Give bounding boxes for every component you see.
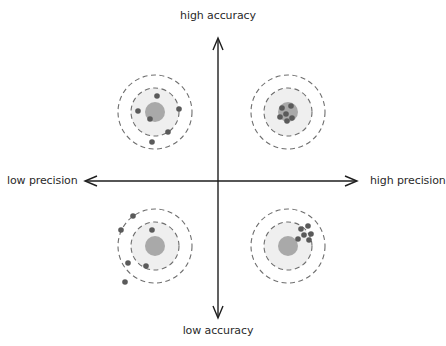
shot-dot	[298, 226, 304, 232]
target-top-right	[251, 75, 325, 149]
shot-dot	[165, 129, 171, 135]
shot-dot	[135, 108, 141, 114]
shot-dot	[306, 237, 312, 243]
bullseye	[278, 236, 298, 256]
shot-dot	[305, 223, 311, 229]
shot-dot	[289, 115, 295, 121]
shot-dot	[130, 213, 136, 219]
shot-dot	[125, 260, 131, 266]
shot-dot	[122, 279, 128, 285]
low-precision-label: low precision	[7, 174, 78, 187]
targets-layer	[118, 75, 325, 285]
target-top-left	[118, 75, 192, 149]
shot-dot	[143, 263, 149, 269]
shot-dot	[147, 116, 153, 122]
shot-dot	[154, 93, 160, 99]
shot-dot	[295, 236, 301, 242]
low-accuracy-label: low accuracy	[0, 324, 436, 337]
shot-dot	[308, 231, 314, 237]
shot-dot	[301, 232, 307, 238]
axes	[85, 38, 357, 318]
shot-dot	[149, 139, 155, 145]
high-precision-label: high precision	[370, 174, 446, 187]
shot-dot	[283, 111, 289, 117]
shot-dot	[284, 118, 290, 124]
shot-dot	[288, 103, 294, 109]
shot-dot	[279, 105, 285, 111]
target-bottom-left	[118, 209, 192, 285]
shot-dot	[118, 227, 124, 233]
shot-dot	[149, 227, 155, 233]
high-accuracy-label: high accuracy	[0, 9, 436, 22]
shot-dot	[277, 114, 283, 120]
target-bottom-right	[251, 209, 325, 283]
shot-dot	[176, 106, 182, 112]
bullseye	[145, 236, 165, 256]
